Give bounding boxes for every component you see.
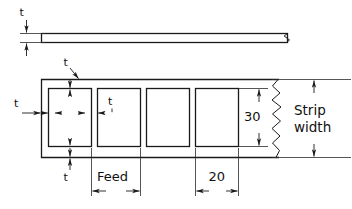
label-feed: Feed [97,169,128,184]
label-left-margin-t: t [14,97,19,110]
blank-3 [147,89,190,147]
label-strip-width-line2: width [294,119,331,135]
blank-1 [49,89,92,147]
label-thickness-t: t [20,6,25,19]
blank-4 [196,89,239,147]
blank-openings [49,89,239,147]
strip-edge-body [42,34,288,43]
strip-edge-view [42,34,290,43]
label-bottom-margin-t: t [64,171,69,184]
label-strip-width-line1: Strip [294,102,326,118]
label-blank-height-30: 30 [244,109,261,124]
top-margin-leader [70,68,79,79]
drawing-canvas: t t t t t [0,0,352,209]
label-top-margin-t: t [64,56,69,69]
dimension-top-margin [70,68,79,88]
strip-break-line [272,80,281,158]
label-blank-width-20: 20 [209,169,226,184]
blank-2 [98,89,141,147]
label-web-t: t [108,95,113,108]
